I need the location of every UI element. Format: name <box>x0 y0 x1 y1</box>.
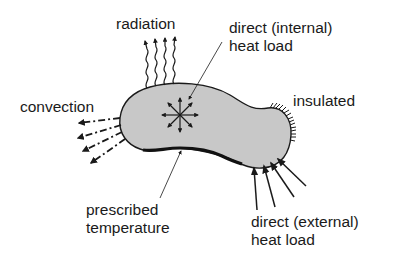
label-insulated: insulated <box>293 92 355 110</box>
convection-arrows <box>78 118 125 163</box>
label-external-heat-load-line2: heat load <box>251 231 315 249</box>
label-prescribed-temperature-line1: prescribed <box>86 201 158 219</box>
heat-transfer-diagram: radiation direct (internal) heat load co… <box>0 0 396 260</box>
prescribed-temperature-leader <box>160 151 181 198</box>
label-convection: convection <box>20 98 94 116</box>
label-external-heat-load-line1: direct (external) <box>251 213 359 231</box>
label-radiation: radiation <box>116 15 175 33</box>
radiation-arrows <box>145 37 175 88</box>
label-prescribed-temperature-line2: temperature <box>86 219 170 237</box>
label-internal-heat-load-line2: heat load <box>229 37 293 55</box>
label-internal-heat-load-line1: direct (internal) <box>229 19 332 37</box>
solid-body <box>120 83 291 168</box>
